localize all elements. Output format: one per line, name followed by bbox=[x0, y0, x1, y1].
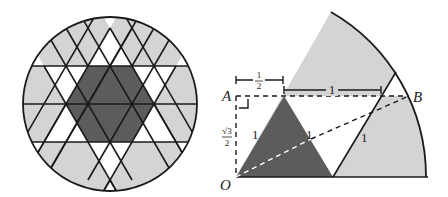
right-angle-marker bbox=[239, 99, 248, 108]
label-side-right: 1 bbox=[361, 130, 368, 145]
label-one-top: 1 bbox=[329, 82, 336, 97]
label-side-mid: 1 bbox=[306, 127, 313, 142]
point-label-A: A bbox=[221, 88, 232, 104]
label-sqrt3-num: √3 bbox=[222, 126, 232, 136]
label-half-den: 2 bbox=[257, 81, 262, 91]
sector-figure: 1 2 1 A B O √3 2 1 1 1 bbox=[220, 0, 448, 193]
point-label-B: B bbox=[413, 89, 422, 105]
diagram-canvas: 1 2 1 A B O √3 2 1 1 1 bbox=[0, 0, 448, 197]
point-label-O: O bbox=[220, 177, 231, 193]
label-side-left: 1 bbox=[252, 127, 259, 142]
label-sqrt3-den: 2 bbox=[225, 138, 230, 148]
label-half-num: 1 bbox=[257, 70, 262, 80]
